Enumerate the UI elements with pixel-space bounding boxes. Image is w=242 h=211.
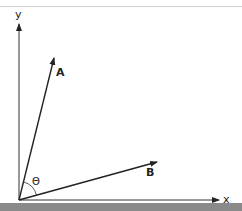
- bottom-border: [0, 203, 242, 211]
- angle-label: Θ: [32, 177, 40, 187]
- vector-b-label: B: [146, 167, 154, 178]
- vector-a-label: A: [56, 67, 65, 78]
- y-axis-label: y: [15, 9, 22, 20]
